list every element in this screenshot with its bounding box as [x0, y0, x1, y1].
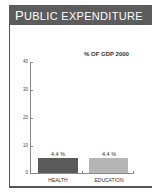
y-tick-label: 20: [17, 115, 28, 120]
y-tick-40: [30, 62, 33, 63]
category-label-education: EDUCATION: [89, 177, 129, 183]
y-tick-30: [30, 90, 33, 91]
y-tick-label: 40: [17, 59, 28, 64]
chart-title-bar: PUBLIC EXPENDITURE: [9, 5, 152, 25]
x-tick: [133, 171, 134, 174]
y-tick-10: [30, 146, 33, 147]
bar-value-label-health: 4.4 %: [38, 151, 78, 157]
category-label-health: HEALTH: [38, 177, 78, 183]
chart-subtitle: % OF GDP 2000: [84, 51, 129, 57]
y-tick-label: 30: [17, 87, 28, 92]
y-tick-label: 0: [17, 170, 28, 175]
bar-health: [38, 158, 78, 173]
bar-education: [89, 158, 128, 173]
bar-value-label-education: 4.4 %: [89, 151, 129, 157]
x-tick: [82, 171, 83, 174]
y-tick-20: [30, 118, 33, 119]
y-tick-label: 10: [17, 143, 28, 148]
chart-title-rest: UBLIC EXPENDITURE: [24, 10, 143, 22]
chart-title-initial: P: [15, 8, 24, 23]
